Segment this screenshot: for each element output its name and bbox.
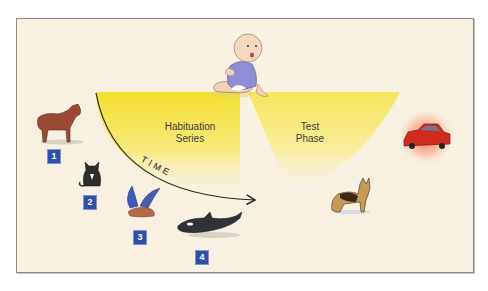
- test-label-line1: Test: [280, 121, 340, 133]
- habituation-label-line2: Series: [150, 133, 230, 145]
- stimulus-badge-4: 4: [196, 251, 208, 264]
- habituation-label-line1: Habituation: [150, 121, 230, 133]
- habituation-label: Habituation Series: [150, 121, 230, 145]
- stimulus-badge-2: 2: [84, 196, 96, 209]
- cat-illustration: [80, 162, 101, 186]
- stimulus-badge-1: 1: [48, 150, 60, 163]
- habituation-sector: [96, 92, 240, 200]
- infant-illustration: [210, 34, 268, 98]
- horse-illustration: [38, 104, 85, 145]
- habituation-diagram: [0, 0, 488, 291]
- orca-illustration: [178, 212, 242, 238]
- bird-illustration: [127, 186, 160, 217]
- test-label-line2: Phase: [280, 133, 340, 145]
- car-illustration: [396, 107, 456, 167]
- dog-illustration: [332, 178, 370, 214]
- test-phase-label: Test Phase: [280, 121, 340, 145]
- stimulus-badge-3: 3: [134, 231, 146, 244]
